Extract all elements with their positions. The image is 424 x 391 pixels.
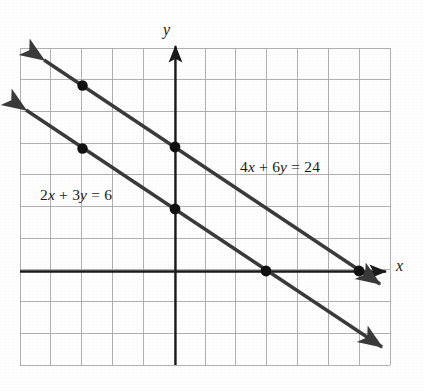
equation-label-upper: 4x + 6y = 24 [240,158,320,176]
point-3-0 [261,266,272,277]
axes [20,46,386,365]
point-neg3-6 [77,80,87,90]
graph-figure: 2x + 3y = 6 4x + 6y = 24 y x [0,0,424,391]
x-axis-label: x [396,257,403,275]
point-0-2 [170,204,181,215]
equation-label-lower: 2x + 3y = 6 [40,186,112,204]
point-neg3-4 [77,143,87,153]
equation-upper-text: 4x + 6y = 24 [240,158,320,175]
equation-lower-text: 2x + 3y = 6 [40,186,112,203]
grid-lines [20,48,390,365]
point-0-4 [170,142,181,153]
line-4x-6y-24 [44,60,380,284]
y-axis-label: y [163,21,170,39]
point-6-0 [354,266,365,277]
